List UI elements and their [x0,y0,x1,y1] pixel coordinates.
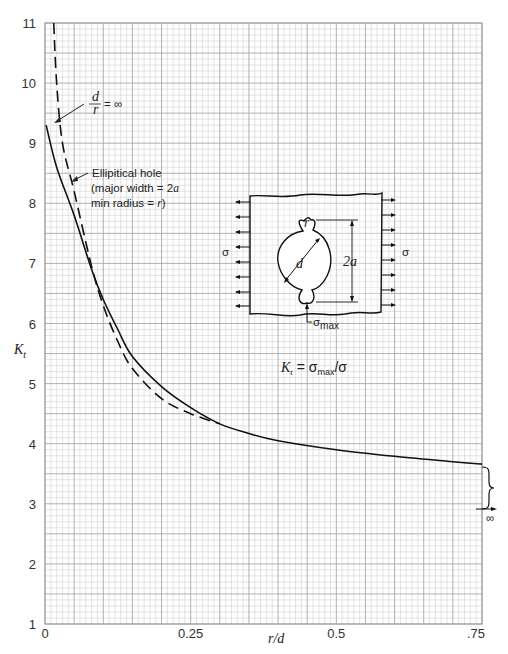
y-tick-label: 11 [23,16,37,31]
infinity-label: ∞ [486,512,494,524]
plate-with-hole-diagram: σ σ d r 2a σmax [222,193,409,331]
svg-text:d: d [296,256,304,271]
svg-text:Ellipitical hole: Ellipitical hole [92,167,162,179]
x-tick-label: 0 [41,626,48,641]
svg-text:min radius = r): min radius = r) [91,197,166,209]
kt-formula: Kt = σmax/σ [280,359,347,377]
x-axis-ticks: 00.250.5.75 [41,626,485,641]
y-tick-label: 8 [29,196,36,211]
y-tick-label: 5 [29,377,36,392]
x-tick-label: 0.25 [178,626,203,641]
svg-text:r: r [304,215,310,230]
y-tick-label: 6 [29,317,36,332]
y-axis-ticks: 1234567891011 [22,16,36,632]
svg-text:2a: 2a [343,254,357,269]
y-tick-label: 3 [29,497,36,512]
y-tick-label: 4 [29,437,36,452]
x-tick-label: 0.5 [327,626,345,641]
stress-concentration-chart: 1234567891011 00.250.5.75 Kt r/d d r = ∞… [0,0,508,654]
y-tick-label: 7 [29,256,36,271]
y-tick-label: 9 [29,136,36,151]
dr-infinity-annotation: d r = ∞ [54,89,122,123]
sigma-max-label: σmax [313,316,339,331]
infinity-limit-marker: ∞ [476,467,497,524]
sigma-left-label: σ [222,246,229,258]
svg-text:r: r [93,102,99,117]
sigma-right-label: σ [402,246,409,258]
x-tick-label: .75 [467,626,485,641]
arrow-head-icon [54,117,61,123]
svg-text:= ∞: = ∞ [104,98,122,110]
x-axis-label: r/d [268,631,285,646]
y-tick-label: 10 [22,76,36,91]
svg-text:(major width = 2a: (major width = 2a [91,182,179,194]
right-brace-icon [482,467,494,509]
y-axis-label: Kt [13,342,26,360]
y-tick-label: 1 [29,617,36,632]
y-tick-label: 2 [29,557,36,572]
